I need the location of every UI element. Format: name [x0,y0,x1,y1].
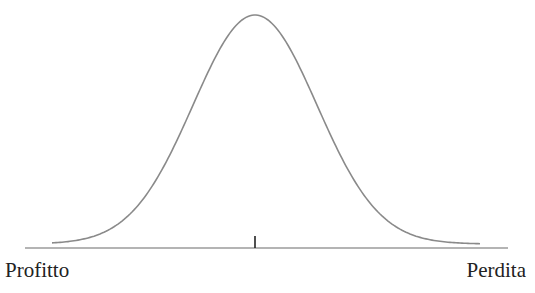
right-axis-label: Perdita [467,260,526,281]
left-axis-label: Profitto [5,260,69,281]
diagram: Profitto Perdita [0,0,535,293]
bell-curve [52,15,480,244]
bell-curve-plot [0,0,535,293]
